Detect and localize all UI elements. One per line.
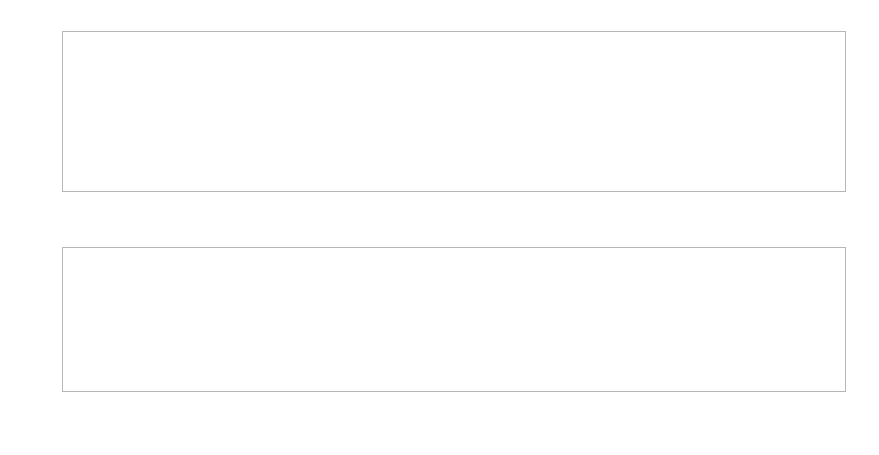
figure-canvas [0,0,879,455]
plot-svg-bottom [0,230,879,455]
chart-panel-top [0,0,879,230]
chart-panel-bottom [0,230,879,455]
plot-svg-top [0,0,879,230]
